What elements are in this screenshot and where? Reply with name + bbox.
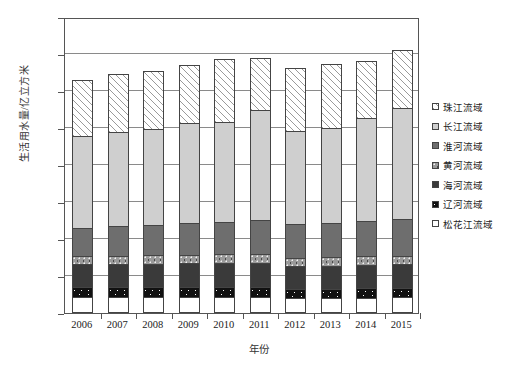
bar-segment-zhu — [251, 59, 270, 111]
legend-swatch-icon-songhua — [432, 220, 439, 227]
legend: 珠江流域长江流域淮河流域黄河流域海河流域辽河流域松花江流域 — [432, 97, 517, 234]
bar-segment-huang — [109, 257, 128, 265]
y-tick-mark — [58, 314, 64, 315]
bar-segment-huang — [286, 259, 305, 267]
bar-2007[interactable] — [108, 74, 129, 313]
bar-segment-liao — [251, 288, 270, 298]
legend-label: 珠江流域 — [443, 100, 483, 114]
x-axis-title: 年份 — [0, 341, 517, 356]
legend-swatch-icon-hai — [432, 181, 439, 188]
legend-swatch-icon-liao — [432, 201, 439, 208]
legend-swatch-icon-huai — [432, 142, 439, 149]
legend-label: 辽河流域 — [443, 197, 483, 211]
bar-segment-hai — [357, 266, 376, 290]
bar-segment-huang — [180, 256, 199, 265]
bar-segment-songhua — [286, 299, 305, 312]
legend-item-chang[interactable]: 长江流域 — [432, 117, 517, 137]
bar-segment-chang — [286, 132, 305, 226]
bar-segment-songhua — [215, 298, 234, 312]
bar-segment-huai — [322, 224, 341, 258]
y-tick-mark — [58, 277, 64, 278]
x-tick-label-2015: 2015 — [378, 319, 424, 330]
legend-item-huai[interactable]: 淮河流域 — [432, 136, 517, 156]
bar-segment-huai — [215, 223, 234, 256]
legend-label: 松花江流域 — [443, 217, 493, 231]
bar-segment-huang — [322, 258, 341, 266]
bar-segment-chang — [215, 123, 234, 222]
bar-segment-songhua — [73, 298, 92, 312]
bar-segment-liao — [215, 288, 234, 298]
bar-segment-huai — [251, 221, 270, 255]
bar-segment-chang — [357, 119, 376, 222]
legend-item-songhua[interactable]: 松花江流域 — [432, 214, 517, 234]
y-tick-mark — [58, 203, 64, 204]
bar-segment-hai — [393, 265, 412, 289]
bar-segment-chang — [393, 109, 412, 220]
legend-label: 长江流域 — [443, 119, 483, 133]
chart-root: 生活用水量/亿立方米 0100200300400500600700800 200… — [0, 0, 517, 366]
y-tick-mark — [58, 240, 64, 241]
bar-segment-liao — [144, 288, 163, 298]
bar-group — [65, 19, 418, 313]
legend-label: 海河流域 — [443, 178, 483, 192]
bar-segment-huang — [73, 257, 92, 265]
bar-segment-liao — [322, 290, 341, 299]
legend-swatch-icon-zhu — [432, 103, 439, 110]
bar-segment-hai — [109, 265, 128, 288]
bar-segment-liao — [73, 288, 92, 298]
y-tick-mark — [58, 18, 64, 19]
bar-segment-hai — [180, 264, 199, 288]
bar-segment-songhua — [322, 299, 341, 312]
y-axis-title: 生活用水量/亿立方米 — [16, 39, 31, 189]
legend-item-liao[interactable]: 辽河流域 — [432, 195, 517, 215]
bar-segment-hai — [73, 265, 92, 288]
bar-segment-huai — [357, 222, 376, 257]
bar-2012[interactable] — [285, 68, 306, 313]
bar-segment-liao — [180, 288, 199, 298]
bar-segment-huai — [180, 224, 199, 255]
bar-segment-chang — [109, 133, 128, 227]
plot-area — [64, 18, 419, 314]
legend-label: 淮河流域 — [443, 139, 483, 153]
bar-segment-songhua — [357, 299, 376, 312]
legend-item-huang[interactable]: 黄河流域 — [432, 156, 517, 176]
bar-segment-zhu — [109, 75, 128, 133]
bar-2014[interactable] — [356, 61, 377, 313]
bar-segment-zhu — [393, 51, 412, 109]
bar-segment-songhua — [251, 298, 270, 312]
bar-segment-huang — [215, 255, 234, 264]
bar-2010[interactable] — [214, 59, 235, 313]
bar-2006[interactable] — [72, 80, 93, 313]
bar-2008[interactable] — [143, 71, 164, 313]
bar-2015[interactable] — [392, 50, 413, 313]
bar-segment-songhua — [180, 298, 199, 312]
bar-segment-liao — [357, 289, 376, 298]
legend-item-hai[interactable]: 海河流域 — [432, 175, 517, 195]
bar-segment-hai — [144, 265, 163, 289]
bar-segment-huai — [109, 227, 128, 257]
y-tick-mark — [58, 92, 64, 93]
bar-2013[interactable] — [321, 64, 342, 313]
bar-segment-hai — [286, 267, 305, 290]
bar-segment-huang — [357, 257, 376, 266]
bar-segment-huai — [144, 226, 163, 256]
bar-2009[interactable] — [179, 65, 200, 313]
bar-segment-huang — [144, 256, 163, 265]
bar-segment-chang — [180, 124, 199, 224]
bar-segment-zhu — [73, 81, 92, 137]
legend-item-zhu[interactable]: 珠江流域 — [432, 97, 517, 117]
bar-segment-chang — [144, 130, 163, 226]
bar-segment-chang — [251, 111, 270, 221]
bar-segment-liao — [393, 289, 412, 298]
bar-segment-songhua — [109, 298, 128, 312]
bar-2011[interactable] — [250, 58, 271, 313]
bar-segment-hai — [251, 264, 270, 289]
bar-segment-zhu — [322, 65, 341, 129]
bar-segment-liao — [109, 288, 128, 298]
bar-segment-chang — [73, 137, 92, 229]
bar-segment-zhu — [180, 66, 199, 124]
bar-segment-zhu — [357, 62, 376, 119]
legend-swatch-icon-chang — [432, 123, 439, 130]
legend-swatch-icon-huang — [432, 162, 439, 169]
bar-segment-zhu — [215, 60, 234, 123]
